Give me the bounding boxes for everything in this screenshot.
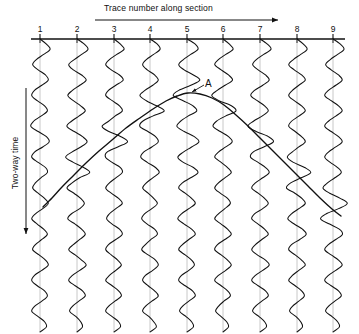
top-axis-label: Trace number along section: [104, 3, 213, 13]
wiggle-trace-3: [102, 39, 127, 332]
wiggle-trace-7: [248, 39, 274, 332]
two-way-time-label: Two-way time: [10, 127, 20, 199]
trace-number-1: 1: [33, 24, 47, 34]
wiggle-trace-6: [212, 39, 236, 332]
trace-number-4: 4: [143, 24, 157, 34]
figure-canvas: [0, 0, 359, 334]
wiggle-trace-2: [66, 39, 90, 332]
wiggle-trace-5: [173, 39, 200, 332]
wiggle-trace-4: [140, 39, 165, 332]
trace-number-5: 5: [180, 24, 194, 34]
trace-number-9: 9: [326, 24, 340, 34]
trace-number-6: 6: [216, 24, 230, 34]
diffraction-hyperbola: [43, 93, 341, 216]
diffraction-apex-label: A: [205, 78, 212, 89]
apex-pointer-arrow: [192, 85, 204, 92]
trace-number-2: 2: [70, 24, 84, 34]
seismic-section-figure: Trace number along section Two-way time …: [0, 0, 359, 334]
wiggle-trace-9: [321, 39, 348, 332]
trace-number-8: 8: [290, 24, 304, 34]
trace-number-7: 7: [253, 24, 267, 34]
trace-number-3: 3: [107, 24, 121, 34]
wiggle-trace-1: [31, 39, 50, 332]
wiggle-traces: [31, 39, 348, 332]
